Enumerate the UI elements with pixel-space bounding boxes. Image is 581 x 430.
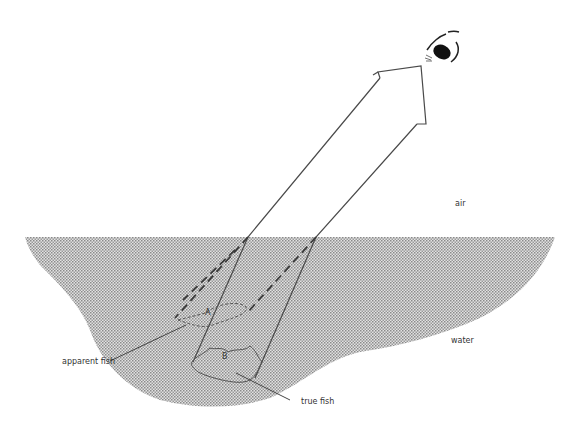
eye-icon xyxy=(425,31,459,62)
true-fish-label: true fish xyxy=(301,397,334,406)
air-label: air xyxy=(455,199,465,208)
fish-a-label: A xyxy=(205,308,210,317)
water-body xyxy=(25,237,555,407)
water-label: water xyxy=(451,336,474,345)
fish-b-label: B xyxy=(222,352,228,361)
refraction-diagram: air water apparent fish true fish A B xyxy=(0,0,581,430)
apparent-fish-label: apparent fish xyxy=(62,357,115,366)
